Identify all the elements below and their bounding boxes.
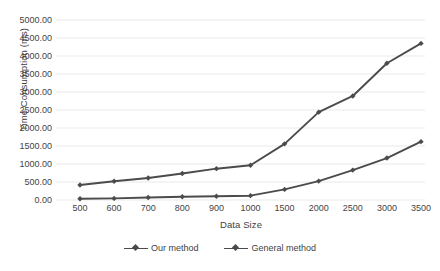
data-point-marker xyxy=(350,167,355,172)
data-point-marker xyxy=(77,196,82,201)
x-axis-tick-label: 2500 xyxy=(343,203,363,213)
data-point-marker xyxy=(146,175,151,180)
data-point-marker xyxy=(180,194,185,199)
x-axis-tick-label: 3500 xyxy=(411,203,431,213)
data-point-marker xyxy=(146,195,151,200)
x-axis-tick-label: 3000 xyxy=(377,203,397,213)
data-point-marker xyxy=(214,166,219,171)
x-axis-tick-label: 1500 xyxy=(275,203,295,213)
x-axis-tick-label: 600 xyxy=(107,203,122,213)
x-axis-tick-label: 700 xyxy=(141,203,156,213)
legend-item[interactable]: Our method xyxy=(124,243,199,253)
legend-item-label: Our method xyxy=(151,243,199,253)
line-chart: 5000.004500.004000.003500.003000.002500.… xyxy=(0,0,440,271)
data-point-marker xyxy=(77,182,82,187)
x-axis-tick-label: 900 xyxy=(209,203,224,213)
data-point-marker xyxy=(111,179,116,184)
plot-area xyxy=(0,0,440,271)
data-point-marker xyxy=(214,194,219,199)
x-axis-tick-label: 500 xyxy=(72,203,87,213)
x-axis-tick-label: 2000 xyxy=(309,203,329,213)
series-line xyxy=(80,142,421,199)
legend-item-label: General method xyxy=(251,243,316,253)
data-point-marker xyxy=(316,178,321,183)
legend-line-marker-icon xyxy=(124,244,148,253)
x-axis-tick-label: 800 xyxy=(175,203,190,213)
legend-line-marker-icon xyxy=(224,244,248,253)
gridlines xyxy=(56,20,425,200)
data-point-marker xyxy=(248,193,253,198)
data-point-marker xyxy=(282,187,287,192)
series-layer xyxy=(77,41,423,202)
x-axis-title: Data Size xyxy=(56,219,426,230)
legend-item[interactable]: General method xyxy=(224,243,316,253)
data-point-marker xyxy=(180,171,185,176)
chart-legend: Our methodGeneral method xyxy=(0,243,440,253)
x-axis-tick-label: 1000 xyxy=(240,203,260,213)
